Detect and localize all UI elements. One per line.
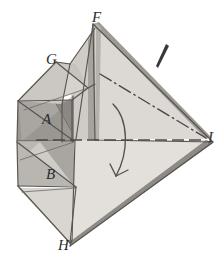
label-A: A [42, 112, 51, 127]
upper-right-large-face [76, 22, 211, 140]
tapered-tick-mark [156, 44, 169, 68]
label-G: G [46, 52, 57, 67]
polyhedron-diagram [0, 0, 224, 265]
label-I: I [208, 130, 213, 145]
label-F: F [92, 10, 101, 25]
figure-container: F G A B H I [0, 0, 224, 265]
label-H: H [58, 238, 69, 253]
label-B: B [46, 167, 55, 182]
left-middle-wedge [18, 62, 70, 104]
